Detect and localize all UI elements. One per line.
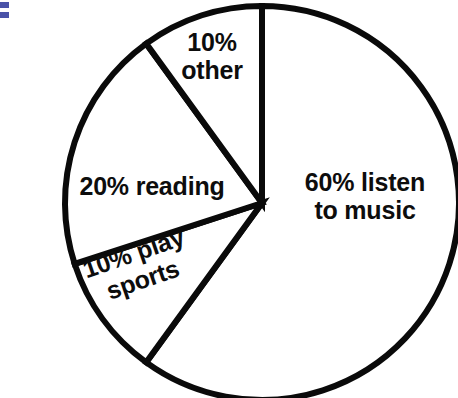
pie-label-reading: 20% reading [54, 172, 250, 200]
corner-artifact-mark-top [0, 2, 9, 8]
pie-chart-figure: 10% other 20% reading 10% play sports 60… [0, 0, 458, 398]
pie-label-listen-to-music: 60% listen to music [288, 168, 442, 224]
pie-label-other: 10% other [160, 28, 264, 84]
corner-artifact-mark-bottom [0, 12, 9, 18]
